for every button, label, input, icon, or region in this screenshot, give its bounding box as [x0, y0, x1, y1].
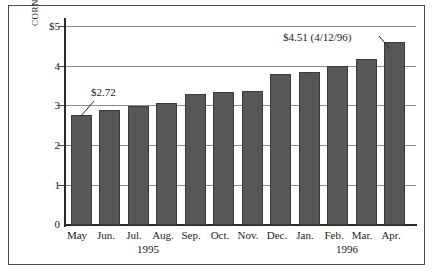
bar-sep [185, 94, 206, 225]
bar-aug [156, 103, 177, 225]
bar-feb [327, 66, 348, 225]
chart-figure: CORN $5 4 3 2 1 0 May Jun. Jul. Aug. Sep… [0, 0, 434, 273]
bar-nov [242, 91, 263, 225]
bars-layer [64, 22, 416, 225]
y-tick-label-1: 1 [36, 180, 60, 191]
bar-dec [270, 74, 291, 225]
annotation-label-apr-price: $4.51 (4/12/96) [283, 31, 351, 43]
year-group-label-1995: 1995 [127, 243, 169, 255]
bar-jul [128, 106, 149, 225]
y-tick-label-4: 4 [36, 61, 60, 72]
y-tick-label-3: 3 [36, 100, 60, 111]
bar-may [71, 115, 92, 225]
bar-mar [356, 59, 377, 225]
year-group-label-1996: 1996 [326, 243, 368, 255]
y-tick-label-2: 2 [36, 140, 60, 151]
bar-jan [299, 72, 320, 225]
bar-apr [384, 42, 405, 225]
annotation-label-may-price: $2.72 [91, 86, 116, 98]
bar-jun [99, 110, 120, 225]
bar-oct [213, 92, 234, 225]
x-tick-label-apr: Apr. [370, 229, 412, 241]
y-tick-label-5: $5 [36, 21, 60, 32]
